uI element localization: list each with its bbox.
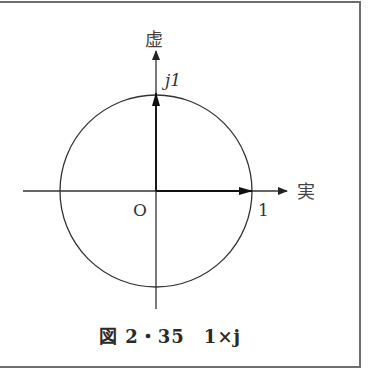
figure-caption: 図 2・35 1×j (0, 322, 340, 348)
imag-point-label: j1 (161, 70, 181, 90)
real-axis-label: 実 (297, 181, 315, 202)
complex-plane-diagram: 虚 実 O j1 1 (0, 0, 370, 377)
imaginary-axis-label: 虚 (145, 29, 163, 50)
origin-label: O (133, 200, 147, 220)
real-point-label: 1 (258, 200, 269, 220)
